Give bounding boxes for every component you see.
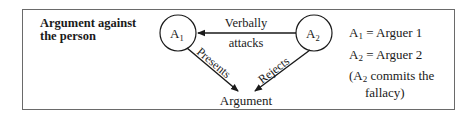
legend-a2: A2 = Arguer 2: [349, 44, 434, 66]
edge-label-verbally: Verbally: [225, 16, 268, 30]
svg-text:A1: A1: [170, 26, 184, 43]
edge-label-presents: Presents: [194, 45, 234, 82]
node-a2-sub: 2: [315, 33, 319, 43]
edge-label-attacks: attacks: [229, 36, 264, 50]
node-argument: Argument: [220, 93, 273, 108]
edge-label-rejects: Rejects: [255, 54, 292, 87]
legend-a1: A1 = Arguer 1: [349, 22, 434, 44]
svg-text:A2: A2: [306, 26, 320, 43]
legend-note: (A2 commits the fallacy): [349, 67, 434, 101]
node-a1: A1: [160, 15, 196, 51]
legend: A1 = Arguer 1 A2 = Arguer 2 (A2 commits …: [349, 22, 434, 101]
node-a2: A2: [296, 15, 332, 51]
node-a1-sub: 1: [179, 33, 183, 43]
